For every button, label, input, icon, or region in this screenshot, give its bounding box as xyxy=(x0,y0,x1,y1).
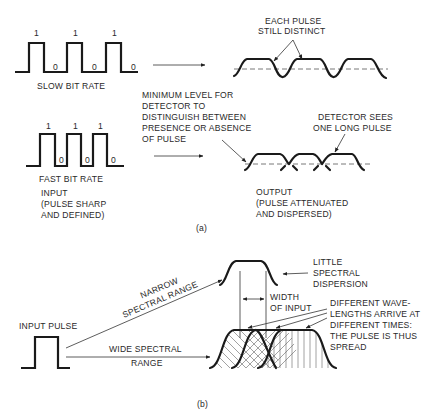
detector-sees-annotation: DETECTOR SEES ONE LONG PULSE xyxy=(313,112,396,133)
part-a-caption: (a) xyxy=(196,223,207,233)
slow-bit-rate-input-waveform: 1 0 1 0 1 0 SLOW BIT RATE xyxy=(15,28,138,91)
bit-label: 0 xyxy=(59,155,64,165)
dispersed-output-pulses xyxy=(184,330,336,370)
fast-bit-rate-input-waveform: 1 0 1 0 1 0 FAST BIT RATE xyxy=(26,121,124,184)
part-b: INPUT PULSE NARROW SPECTRAL RANGE WIDE S… xyxy=(19,257,423,409)
slow-bit-rate-label: SLOW BIT RATE xyxy=(37,81,105,91)
bit-label: 1 xyxy=(73,121,78,131)
bit-label: 0 xyxy=(85,155,90,165)
svg-text:STILL DISTINCT: STILL DISTINCT xyxy=(258,26,326,36)
fiber-dispersion-diagram: 1 0 1 0 1 0 SLOW BIT RATE EACH PULSE STI… xyxy=(0,0,446,417)
bit-label: 1 xyxy=(98,121,103,131)
input-description: INPUT (PULSE SHARP AND DEFINED) xyxy=(41,188,109,220)
bit-label: 0 xyxy=(53,62,58,72)
width-of-input-annotation: WIDTH OF INPUT xyxy=(270,292,312,313)
different-wavelengths-annotation: DIFFERENT WAVE- LENGTHS ARRIVE AT DIFFER… xyxy=(330,298,423,352)
bit-label: 0 xyxy=(111,155,116,165)
output-description: OUTPUT (PULSE ATTENUATED AND DISPERSED) xyxy=(256,187,351,219)
slow-bit-rate-output-waveform: EACH PULSE STILL DISTINCT xyxy=(234,16,388,78)
leader-line xyxy=(222,140,246,162)
fast-bit-rate-label: FAST BIT RATE xyxy=(39,174,103,184)
bit-label: 1 xyxy=(46,121,51,131)
input-pulse-label: INPUT PULSE xyxy=(19,321,77,331)
threshold-annotation: MINIMUM LEVEL FOR DETECTOR TO DISTINGUIS… xyxy=(142,90,254,144)
bit-label: 1 xyxy=(73,28,78,38)
part-a: 1 0 1 0 1 0 SLOW BIT RATE EACH PULSE STI… xyxy=(15,16,396,233)
bit-label: 1 xyxy=(34,28,39,38)
leader-line xyxy=(335,134,345,152)
leader-line xyxy=(306,318,327,328)
part-b-caption: (b) xyxy=(197,399,208,409)
input-pulse-waveform xyxy=(21,337,70,368)
bit-label: 0 xyxy=(131,62,136,72)
leader-line xyxy=(283,273,308,274)
leader-line xyxy=(274,40,293,61)
fast-bit-rate-output-waveform: DETECTOR SEES ONE LONG PULSE xyxy=(245,112,396,170)
each-pulse-annotation: EACH PULSE xyxy=(265,16,322,26)
bit-label: 1 xyxy=(112,28,117,38)
narrow-spectral-range-label: NARROW SPECTRAL RANGE xyxy=(117,269,200,320)
leader-line xyxy=(293,40,302,59)
little-dispersion-annotation: LITTLE SPECTRAL DISPERSION xyxy=(313,257,368,289)
narrow-output-pulse xyxy=(220,261,277,285)
bit-label: 0 xyxy=(92,62,97,72)
wide-spectral-range-label: WIDE SPECTRAL RANGE xyxy=(109,344,184,368)
